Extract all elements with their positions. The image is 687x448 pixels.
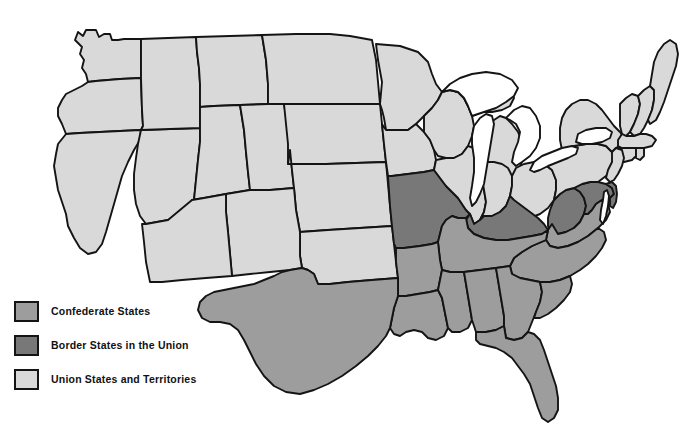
legend-label-border: Border States in the Union [51,340,189,351]
state-rhode-island [636,148,644,160]
state-california [54,130,141,254]
legend-item-confederate: Confederate States [14,300,254,322]
state-arkansas [396,242,442,296]
state-new-mexico-territory [226,188,302,276]
legend-swatch-union [14,369,39,390]
legend-label-confederate: Confederate States [51,306,150,317]
state-florida [476,326,558,422]
state-oregon [58,78,143,134]
map-legend: Confederate States Border States in the … [14,300,254,402]
state-nebraska-territory [284,104,386,164]
state-washington-territory [75,30,141,82]
legend-swatch-confederate [14,301,39,322]
state-idaho-territory [141,37,200,130]
state-louisiana [390,290,448,340]
civil-war-map-figure: Confederate States Border States in the … [0,0,687,448]
legend-item-border: Border States in the Union [14,334,254,356]
state-utah-territory [192,105,250,200]
state-dakota-territory [262,34,380,104]
legend-item-union: Union States and Territories [14,368,254,390]
state-massachusetts [618,134,656,148]
legend-swatch-border [14,335,39,356]
state-maine [648,40,678,124]
state-montana-territory [196,35,268,107]
legend-label-union: Union States and Territories [51,374,196,385]
